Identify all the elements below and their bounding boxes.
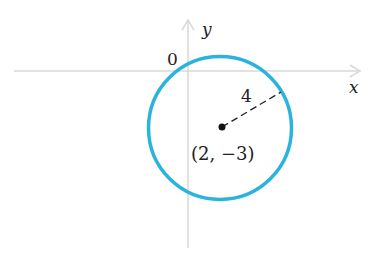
coordinate-diagram: y x 0 4 (2, −3): [0, 0, 387, 277]
center-label: (2, −3): [191, 143, 254, 164]
y-axis: [182, 20, 194, 248]
x-axis-label: x: [349, 77, 359, 97]
center-point: [219, 124, 226, 131]
origin-label: 0: [167, 49, 178, 69]
radius-label: 4: [241, 86, 252, 106]
y-axis-label: y: [201, 19, 212, 39]
x-axis: [14, 65, 360, 77]
